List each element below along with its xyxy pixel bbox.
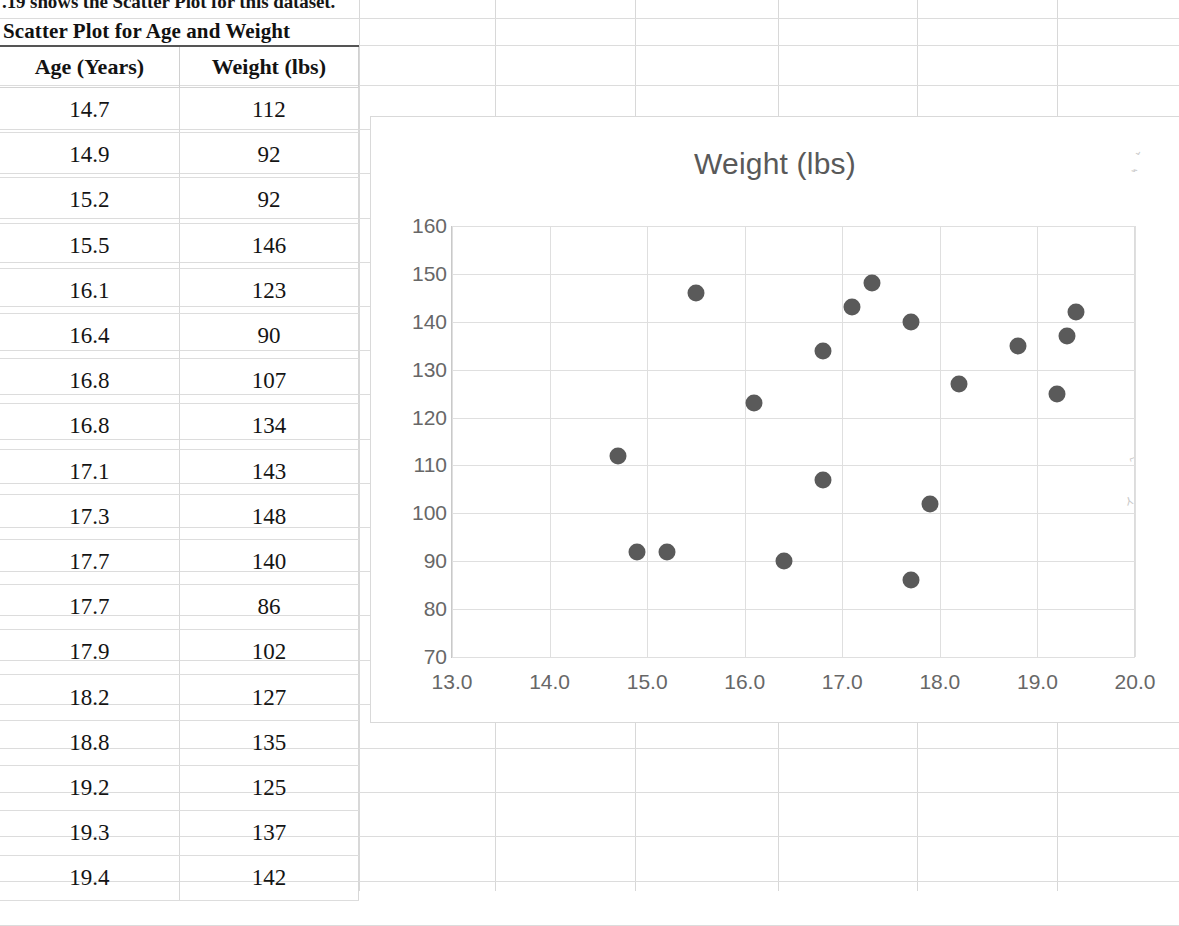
gridline-horizontal <box>452 370 1135 371</box>
cell-weight: 143 <box>179 449 358 494</box>
cell-age: 16.4 <box>0 313 179 358</box>
cell-age: 19.3 <box>0 811 179 856</box>
x-axis-tick-label: 19.0 <box>997 670 1077 694</box>
gridline-horizontal <box>452 657 1135 658</box>
scatter-point <box>687 285 704 302</box>
table-row: 14.992 <box>0 133 359 178</box>
table-row: 17.1143 <box>0 449 359 494</box>
table-row: 16.490 <box>0 313 359 358</box>
cell-age: 14.7 <box>0 88 179 133</box>
chart-title: Weight (lbs) <box>371 147 1179 181</box>
cell-weight: 148 <box>179 494 358 539</box>
cell-weight: 90 <box>179 313 358 358</box>
cell-age: 18.8 <box>0 720 179 765</box>
x-axis-tick-label: 16.0 <box>705 670 785 694</box>
cell-age: 15.2 <box>0 178 179 223</box>
cell-age: 17.1 <box>0 449 179 494</box>
table-row: 15.292 <box>0 178 359 223</box>
cell-age: 17.3 <box>0 494 179 539</box>
y-axis-tick-label: 120 <box>387 406 447 430</box>
table-header-row: Age (Years)Weight (lbs) <box>0 46 359 88</box>
y-axis-tick-label: 140 <box>387 310 447 334</box>
scatter-point <box>922 495 939 512</box>
gridline-vertical <box>940 226 941 657</box>
gridline-horizontal <box>452 322 1135 323</box>
column-header-age: Age (Years) <box>0 46 179 88</box>
gridline-horizontal <box>452 226 1135 227</box>
scatter-point <box>746 395 763 412</box>
table-row: 19.2125 <box>0 765 359 810</box>
x-axis-tick-label: 13.0 <box>412 670 492 694</box>
cell-weight: 92 <box>179 178 358 223</box>
scatter-point <box>863 275 880 292</box>
cell-weight: 112 <box>179 88 358 133</box>
cell-age: 19.2 <box>0 765 179 810</box>
gridline-horizontal <box>452 513 1135 514</box>
y-axis-tick-label: 150 <box>387 262 447 286</box>
age-weight-data-table: Scatter Plot for Age and WeightAge (Year… <box>0 18 359 901</box>
gridline-vertical <box>745 226 746 657</box>
cell-age: 16.8 <box>0 404 179 449</box>
table-row: 18.2127 <box>0 675 359 720</box>
cell-weight: 92 <box>179 133 358 178</box>
table-row: 17.7140 <box>0 539 359 584</box>
scatter-point <box>902 572 919 589</box>
table-row: 19.3137 <box>0 811 359 856</box>
gridline-vertical <box>550 226 551 657</box>
y-axis-tick-label: 130 <box>387 358 447 382</box>
cell-age: 17.7 <box>0 539 179 584</box>
scatter-point <box>1058 328 1075 345</box>
scatter-point <box>814 342 831 359</box>
cell-weight: 125 <box>179 765 358 810</box>
cell-weight: 140 <box>179 539 358 584</box>
column-header-weight: Weight (lbs) <box>179 46 358 88</box>
table-title: Scatter Plot for Age and Weight <box>0 18 359 46</box>
gridline-horizontal <box>452 561 1135 562</box>
scatter-point <box>1068 304 1085 321</box>
gridline-horizontal <box>452 609 1135 610</box>
cell-weight: 137 <box>179 811 358 856</box>
table-row: 18.8135 <box>0 720 359 765</box>
y-axis-tick-label: 80 <box>387 597 447 621</box>
scatter-point <box>844 299 861 316</box>
scatter-chart-object[interactable]: Weight (lbs) ⌄ ⌁ ⌐ ⅄ 7080901001101201301… <box>370 116 1179 723</box>
x-axis-tick-label: 17.0 <box>802 670 882 694</box>
table-row: 17.9102 <box>0 630 359 675</box>
gridline-horizontal <box>452 418 1135 419</box>
scatter-point <box>902 313 919 330</box>
gridline-vertical <box>842 226 843 657</box>
x-axis-tick-label: 18.0 <box>900 670 980 694</box>
scatter-point <box>1009 337 1026 354</box>
scatter-point <box>775 553 792 570</box>
gridline-horizontal <box>452 274 1135 275</box>
cell-age: 16.1 <box>0 268 179 313</box>
cell-weight: 123 <box>179 268 358 313</box>
scatter-point <box>658 543 675 560</box>
y-axis-tick-label: 100 <box>387 501 447 525</box>
cell-age: 16.8 <box>0 359 179 404</box>
table-title-row: Scatter Plot for Age and Weight <box>0 18 359 46</box>
cell-weight: 135 <box>179 720 358 765</box>
gridline-horizontal <box>452 465 1135 466</box>
table-row: 19.4142 <box>0 856 359 901</box>
y-axis-tick-label: 70 <box>387 645 447 669</box>
cell-weight: 86 <box>179 585 358 630</box>
gridline-vertical <box>1135 226 1136 657</box>
x-axis-tick-label: 15.0 <box>607 670 687 694</box>
intro-paragraph: .19 shows the Scatter Plot for this data… <box>2 0 335 13</box>
gridline-vertical <box>647 226 648 657</box>
scatter-point <box>951 376 968 393</box>
table-row: 15.5146 <box>0 223 359 268</box>
cell-age: 17.7 <box>0 585 179 630</box>
sheet-column-divider <box>359 0 360 891</box>
y-axis-tick-label: 90 <box>387 549 447 573</box>
cell-age: 15.5 <box>0 223 179 268</box>
cell-age: 18.2 <box>0 675 179 720</box>
gridline-vertical <box>1037 226 1038 657</box>
table-row: 16.8107 <box>0 359 359 404</box>
cell-weight: 142 <box>179 856 358 901</box>
scatter-point <box>609 447 626 464</box>
cell-weight: 127 <box>179 675 358 720</box>
x-axis-tick-label: 14.0 <box>510 670 590 694</box>
table-row: 17.3148 <box>0 494 359 539</box>
